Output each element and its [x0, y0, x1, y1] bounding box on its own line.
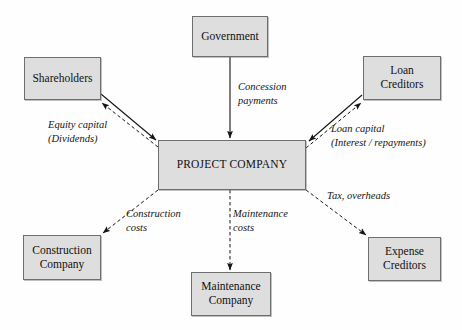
edge-label-construction-costs: Construction costs: [126, 207, 212, 234]
node-loan-creditors-label: Loan Creditors: [381, 64, 424, 91]
edge-label-loan-capital: Loan capital (Interest / repayments): [331, 122, 462, 149]
node-construction-company[interactable]: Construction Company: [23, 235, 101, 280]
node-expense-creditors[interactable]: Expense Creditors: [368, 237, 441, 281]
edge-label-equity-capital: Equity capital (Dividends): [48, 118, 158, 145]
diagram-canvas: Government Shareholders Loan Creditors P…: [0, 0, 462, 330]
node-project-company[interactable]: PROJECT COMPANY: [158, 140, 306, 190]
node-government[interactable]: Government: [192, 16, 268, 57]
node-project-company-label: PROJECT COMPANY: [177, 158, 288, 172]
edge-label-concession-payments: Concession payments: [238, 80, 324, 107]
edge-label-tax-overheads: Tax, overheads: [327, 189, 447, 203]
node-loan-creditors[interactable]: Loan Creditors: [363, 56, 441, 100]
edge-label-maintenance-costs: Maintenance costs: [233, 207, 319, 234]
node-government-label: Government: [201, 30, 258, 44]
node-expense-creditors-label: Expense Creditors: [383, 245, 426, 272]
node-shareholders-label: Shareholders: [32, 72, 92, 86]
node-maintenance-company-label: Maintenance Company: [201, 280, 260, 307]
node-construction-company-label: Construction Company: [32, 244, 91, 271]
node-shareholders[interactable]: Shareholders: [24, 57, 101, 100]
node-maintenance-company[interactable]: Maintenance Company: [191, 272, 271, 316]
